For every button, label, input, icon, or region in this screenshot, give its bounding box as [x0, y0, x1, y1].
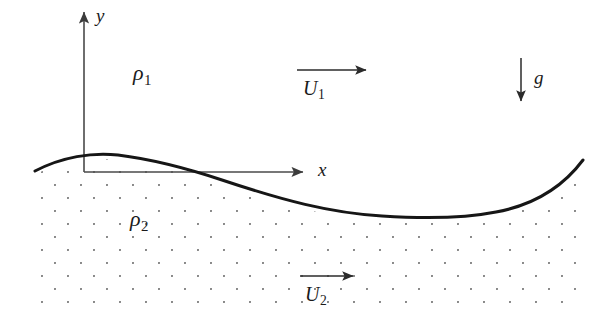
upper-velocity-symbol: U	[303, 77, 317, 99]
coordinate-axes	[84, 12, 303, 172]
lower-velocity-symbol: U	[305, 283, 319, 305]
lower-density-symbol: ρ	[130, 206, 141, 231]
gravity-label: g	[534, 68, 544, 87]
lower-fluid-stipple	[28, 150, 580, 315]
diagram-canvas	[0, 0, 610, 327]
lower-density-subscript: 2	[141, 218, 148, 234]
x-axis-label: x	[318, 160, 326, 179]
lower-velocity-subscript: 2	[320, 293, 327, 308]
lower-density-label: ρ2	[130, 208, 149, 234]
upper-density-symbol: ρ	[133, 60, 144, 85]
upper-velocity-label: U1	[303, 78, 325, 102]
lower-velocity-label: U2	[305, 284, 327, 308]
upper-density-subscript: 1	[144, 72, 151, 88]
upper-velocity-subscript: 1	[318, 87, 325, 102]
upper-density-label: ρ1	[133, 62, 152, 88]
fluid-interface-diagram: y x ρ1 ρ2 U1 U2 g	[0, 0, 610, 327]
y-axis-label: y	[96, 6, 104, 25]
